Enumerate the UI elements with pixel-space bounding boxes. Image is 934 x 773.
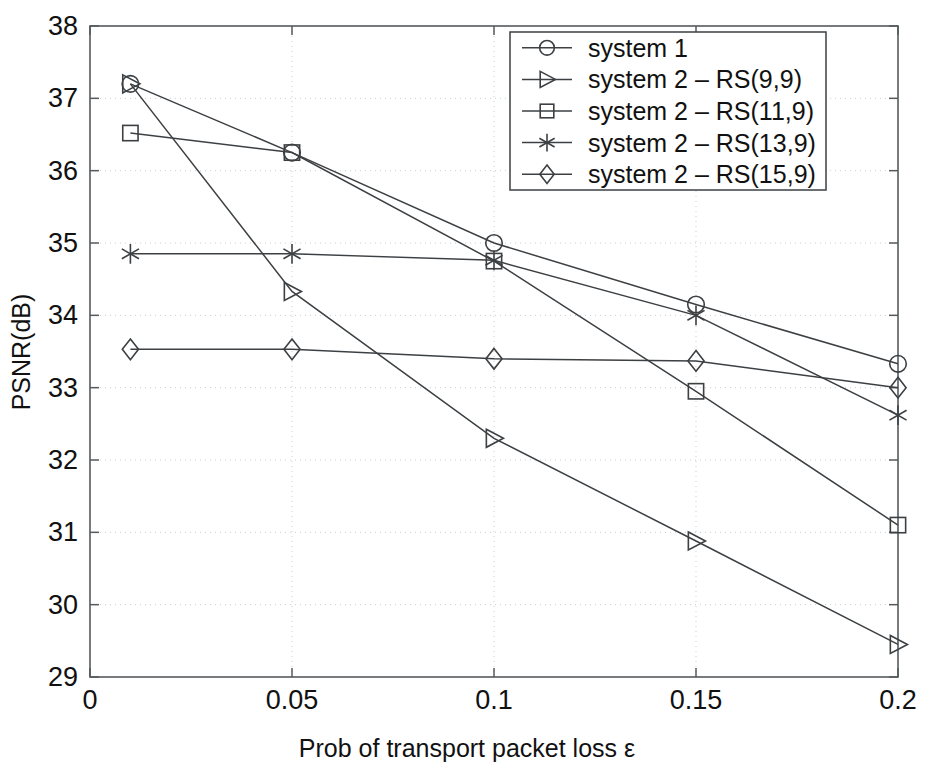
psnr-vs-packet-loss-chart: 29303132333435363738 00.050.10.150.2 sys… [0,0,934,773]
x-tick-label: 0.1 [475,685,513,715]
x-axis-title: Prob of transport packet loss ε [299,734,635,762]
chart-legend[interactable]: system 1system 2 – RS(9,9)system 2 – RS(… [510,32,826,190]
y-tick-label: 35 [48,228,78,258]
y-tick-label: 32 [48,445,78,475]
y-tick-label: 29 [48,662,78,692]
legend-label: system 2 – RS(13,9) [588,129,816,157]
x-tick-label: 0.2 [879,685,917,715]
x-tick-label: 0 [82,685,97,715]
y-tick-label: 38 [48,11,78,41]
chart-figure: 29303132333435363738 00.050.10.150.2 sys… [0,0,934,773]
y-tick-label: 36 [48,156,78,186]
legend-label: system 2 – RS(11,9) [588,97,814,125]
legend-label: system 2 – RS(15,9) [588,160,816,188]
legend-label: system 2 – RS(9,9) [588,65,802,93]
legend-label: system 1 [588,34,688,62]
y-tick-label: 34 [48,300,78,330]
y-tick-label: 37 [48,83,78,113]
x-tick-label: 0.15 [670,685,723,715]
x-tick-label: 0.05 [266,685,319,715]
y-tick-label: 30 [48,590,78,620]
y-axis-title: PSNR(dB) [7,294,35,411]
y-tick-label: 33 [48,373,78,403]
y-tick-label: 31 [48,517,78,547]
